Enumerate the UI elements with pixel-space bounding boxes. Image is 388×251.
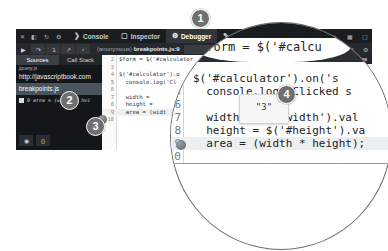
settings-icon: ⚙ — [370, 41, 377, 50]
tab-inspector[interactable]: ▢ Inspector — [115, 29, 166, 43]
step-in-icon[interactable]: ↴ — [46, 44, 60, 54]
console-icon: ❯ — [74, 32, 80, 40]
eye-icon[interactable]: ◉ — [19, 135, 33, 146]
source-file-selected[interactable]: breakpoints.js — [16, 83, 102, 95]
magnified-breakpoint-icon — [176, 140, 186, 150]
tab-console[interactable]: ❯ Console — [68, 29, 115, 43]
columns-icon: ▥ — [352, 41, 360, 50]
back-icon[interactable]: ‹ — [76, 44, 90, 54]
dock-icon[interactable]: ◧ — [28, 29, 40, 43]
breadcrumb-scope[interactable]: (anonymous) — [97, 46, 132, 52]
magnified-line-paused: 9 area = (width * height); — [171, 137, 388, 150]
tab-label: Inspector — [131, 33, 160, 40]
breakpoint-line: 9 — [27, 95, 30, 106]
callout-1: 1 — [191, 9, 210, 28]
magnified-toolbar-icons: ▥ ⚙ — [352, 41, 377, 50]
magnified-editor-edge — [171, 163, 388, 164]
gear-icon[interactable]: ⚙ — [52, 29, 64, 43]
zoom-magnifier: $form = $('#calcu ▥ ⚙ 4$('#calculator').… — [170, 22, 388, 250]
magnified-line: 8 height = $('#height').va — [171, 124, 388, 137]
sidebar-tabs: Sources Call Stack — [16, 55, 102, 65]
refresh-icon[interactable]: ↻ — [40, 29, 52, 43]
tab-call-stack[interactable]: Call Stack — [59, 55, 102, 65]
inspector-icon: ▢ — [121, 32, 128, 40]
step-over-icon[interactable]: ↷ — [31, 44, 45, 54]
callout-3: 3 — [86, 117, 105, 136]
tab-label: Console — [83, 33, 109, 40]
sidebar-bottom-bar: ◉ {} — [19, 135, 51, 146]
resume-icon[interactable]: ▶ — [16, 44, 30, 54]
source-origin[interactable]: http://javascriptbook.com — [16, 71, 102, 83]
tab-sources[interactable]: Sources — [16, 55, 59, 65]
magnified-first-line: $form = $('#calcu — [199, 40, 322, 54]
callout-4: 4 — [277, 85, 296, 104]
breakpoint-item[interactable]: 9 area = (width * hei — [16, 95, 102, 106]
callout-2: 2 — [60, 91, 79, 110]
close-icon[interactable]: ✕ — [16, 29, 28, 43]
pretty-print-icon[interactable]: {} — [36, 135, 50, 146]
step-out-icon[interactable]: ↗ — [61, 44, 75, 54]
breadcrumb[interactable]: (anonymous) breakpoints.js:9 — [97, 46, 180, 52]
breakpoint-checkbox[interactable] — [19, 98, 24, 103]
magnified-line: 10 — [171, 150, 388, 163]
magnified-line: 4$('#calculator').on('s — [171, 72, 388, 85]
sources-sidebar: Sources Call Stack jquery.js http://java… — [16, 55, 102, 150]
